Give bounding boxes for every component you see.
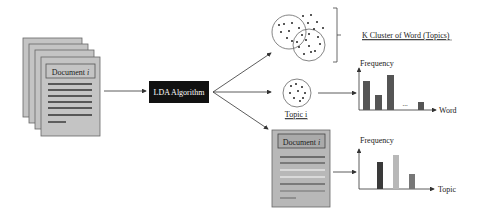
topic-frequency-chart: Frequency Topic xyxy=(359,136,457,194)
document-title: Document i xyxy=(52,68,90,77)
topic-chart-xlabel: Topic xyxy=(438,185,457,194)
lda-diagram: Document i LDA Algorithm xyxy=(0,0,479,217)
lda-algorithm-box: LDA Algorithm xyxy=(149,81,209,103)
word-frequency-chart: Frequency Word ... xyxy=(359,59,457,115)
clusters-label: K Cluster of Word (Topics) xyxy=(362,31,450,40)
cluster-bracket xyxy=(333,8,341,62)
topic-cluster xyxy=(283,79,311,107)
word-chart-ylabel: Frequency xyxy=(360,59,394,68)
fork-arrows xyxy=(213,53,271,129)
output-document: Document i xyxy=(272,130,330,207)
output-document-title: Document i xyxy=(283,138,321,147)
word-clusters xyxy=(272,8,341,62)
document-stack: Document i xyxy=(23,38,100,136)
word-chart-xlabel: Word xyxy=(439,106,457,115)
ellipsis: ... xyxy=(402,100,408,108)
topic-label: Topic i xyxy=(285,110,308,119)
lda-label: LDA Algorithm xyxy=(154,88,206,97)
topic-chart-ylabel: Frequency xyxy=(360,136,394,145)
